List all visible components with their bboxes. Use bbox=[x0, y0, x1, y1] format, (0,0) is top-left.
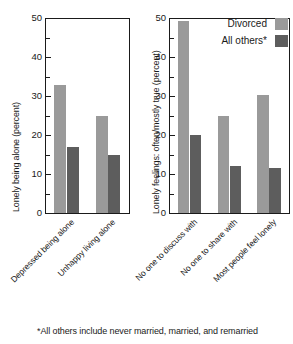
y-tick-major bbox=[46, 213, 51, 214]
legend-label: Divorced bbox=[228, 17, 267, 30]
y-tick-label: 30 bbox=[148, 91, 166, 100]
y-tick-label: 10 bbox=[24, 169, 42, 178]
bar bbox=[230, 166, 241, 213]
bar bbox=[269, 168, 280, 213]
legend-swatch bbox=[275, 18, 288, 30]
category-label: Unhappy living alone bbox=[25, 217, 117, 309]
y-tick-major bbox=[170, 213, 175, 214]
bar bbox=[54, 85, 66, 213]
plot-frame-right-right bbox=[289, 18, 290, 214]
legend-label: All others* bbox=[221, 34, 267, 47]
bar bbox=[257, 95, 268, 213]
y-axis-title-left: Lonely being alone (percent) bbox=[11, 102, 21, 212]
bar bbox=[96, 116, 108, 213]
bar bbox=[190, 135, 201, 213]
y-tick-label: 50 bbox=[148, 13, 166, 22]
legend-swatch bbox=[275, 35, 288, 47]
y-tick-label: 0 bbox=[148, 208, 166, 217]
y-tick-label: 40 bbox=[148, 52, 166, 61]
y-tick-label: 10 bbox=[148, 169, 166, 178]
x-axis-right bbox=[169, 213, 290, 214]
bar bbox=[218, 116, 229, 213]
legend-item: Divorced bbox=[175, 17, 288, 31]
y-tick-label: 50 bbox=[24, 13, 42, 22]
figure: Lonely being alone (percent) 01020304050… bbox=[0, 0, 293, 344]
y-tick-label: 30 bbox=[24, 91, 42, 100]
y-tick-label: 40 bbox=[24, 52, 42, 61]
plot-frame-right-left bbox=[129, 18, 130, 214]
y-tick-label: 20 bbox=[24, 130, 42, 139]
bars-left bbox=[46, 19, 129, 213]
legend-item: All others* bbox=[175, 34, 288, 48]
y-tick-label: 20 bbox=[148, 130, 166, 139]
x-axis-left bbox=[45, 213, 130, 214]
chart-panel-right: Lonely feelings: often/mostly true (perc… bbox=[140, 0, 293, 330]
legend: DivorcedAll others* bbox=[175, 17, 288, 51]
chart-panel-left: Lonely being alone (percent) 01020304050… bbox=[0, 0, 140, 330]
footnote: *All others include never married, marri… bbox=[37, 326, 258, 336]
bar bbox=[67, 147, 79, 213]
bar bbox=[108, 155, 120, 213]
y-tick-label: 0 bbox=[24, 208, 42, 217]
